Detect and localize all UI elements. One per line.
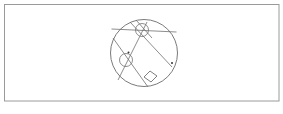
chord-top-left-to-right [130,22,172,67]
dot-right [171,62,173,64]
point-markers [128,52,174,65]
dot-left [128,52,130,54]
diagram-canvas [0,0,283,114]
geometry-figure [0,0,283,114]
right-angle-square [144,71,157,82]
